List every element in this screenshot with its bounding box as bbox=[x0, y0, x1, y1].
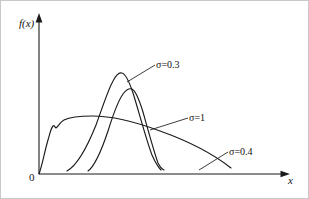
series-label-sigma-1: σ=1 bbox=[189, 113, 205, 123]
y-axis-label: f(x) bbox=[19, 18, 34, 29]
y-axis-arrowhead bbox=[36, 13, 43, 23]
leader-line-sigma-0-3 bbox=[127, 65, 155, 82]
series-label-sigma-0-4: σ=0.4 bbox=[229, 147, 253, 157]
leader-line-sigma-1 bbox=[150, 118, 188, 130]
density-curves-figure: f(x) x 0 σ=0.3 σ=1 σ=0.4 bbox=[0, 0, 309, 199]
curve-sigma-0-4 bbox=[88, 89, 164, 171]
x-axis-label: x bbox=[288, 175, 293, 186]
series-label-sigma-0-3: σ=0.3 bbox=[156, 60, 180, 70]
leader-line-sigma-0-4 bbox=[199, 152, 228, 170]
curve-sigma-0-3 bbox=[67, 73, 161, 171]
plot-canvas bbox=[0, 0, 309, 199]
origin-label: 0 bbox=[29, 172, 35, 183]
curve-sigma-1 bbox=[39, 116, 231, 174]
